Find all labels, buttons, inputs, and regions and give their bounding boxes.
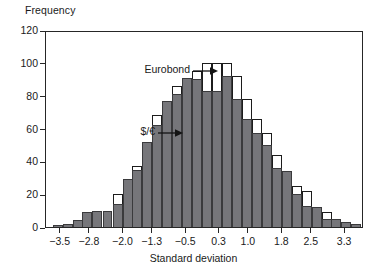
x-tick-mark [88,228,89,233]
y-axis-title: Frequency [25,4,76,16]
bar-pair [262,32,272,227]
x-tick-label: −2.0 [112,235,133,247]
x-tick-mark [185,228,186,233]
bar-pair [92,32,102,227]
bar-pair [103,32,113,227]
bar-pair [123,32,133,227]
bar-pair [63,32,73,227]
bar-pair [82,32,92,227]
x-tick-mark [247,228,248,233]
y-tick-label: 80 [26,90,38,102]
bar-dollar-euro [232,99,242,227]
histogram-figure: Frequency 020406080100120 −3.5−2.8−2.0−1… [0,0,387,273]
bar-dollar-euro [152,125,162,227]
bar-dollar-euro [142,142,152,227]
x-tick-label: 3.3 [337,235,352,247]
bar-pair [73,32,83,227]
bar-dollar-euro [252,133,262,227]
x-axis-title: Standard deviation [0,252,387,264]
bar-pair [331,32,341,227]
x-tick-mark [344,228,345,233]
bar-pair [341,32,351,227]
x-tick-label: −1.3 [141,235,162,247]
x-tick-label: −2.8 [79,235,100,247]
x-tick-label: 1.0 [241,235,256,247]
bar-pair [292,32,302,227]
bar-dollar-euro [63,224,73,227]
bar-dollar-euro [272,168,282,227]
bar-dollar-euro [103,211,113,227]
x-tick-label: −3.5 [49,235,70,247]
bar-dollar-euro [73,220,83,227]
bar-dollar-euro [322,219,332,227]
bar-dollar-euro [162,101,172,227]
bar-pair [252,32,262,227]
y-tick-label: 40 [26,155,38,167]
bar-dollar-euro [182,78,192,227]
bar-dollar-euro [292,194,302,227]
bar-group [46,32,362,227]
bar-pair [192,32,202,227]
plot-area [45,31,363,228]
bar-dollar-euro [222,76,232,227]
y-tick-label: 0 [32,221,38,233]
bar-dollar-euro [172,94,182,227]
bar-dollar-euro [331,219,341,227]
x-tick-label: 2.5 [303,235,318,247]
bar-dollar-euro [282,171,292,227]
y-tick-label: 60 [26,123,38,135]
bar-dollar-euro [113,204,123,227]
bar-dollar-euro [302,206,312,227]
arrow-right-icon [193,66,219,76]
bar-dollar-euro [351,224,361,227]
x-tick-mark [151,228,152,233]
x-tick-label: 1.8 [274,235,289,247]
bar-pair [202,32,212,227]
bar-pair [302,32,312,227]
bar-dollar-euro [132,170,142,227]
x-tick-mark [218,228,219,233]
arrow-right-icon [158,128,184,138]
bar-pair [53,32,63,227]
bar-pair [282,32,292,227]
x-tick-label: −0.5 [175,235,196,247]
bar-dollar-euro [82,212,92,227]
bar-pair [272,32,282,227]
bar-dollar-euro [202,91,212,227]
bar-pair [222,32,232,227]
x-tick-label: 0.3 [211,235,226,247]
y-tick-label: 120 [20,24,38,36]
y-tick-label: 100 [20,57,38,69]
annotation-eurobond-label: Eurobond [144,63,193,75]
bar-dollar-euro [53,225,63,227]
x-tick-mark [281,228,282,233]
bar-pair [212,32,222,227]
bar-dollar-euro [341,222,351,227]
y-tick-label: 20 [26,188,38,200]
x-tick-mark [310,228,311,233]
bar-dollar-euro [92,211,102,227]
bar-pair [351,32,361,227]
bar-dollar-euro [123,179,133,227]
x-tick-mark [59,228,60,233]
bar-pair [232,32,242,227]
bar-pair [113,32,123,227]
bar-pair [322,32,332,227]
bar-dollar-euro [242,119,252,227]
bar-dollar-euro [262,145,272,227]
bar-pair [312,32,322,227]
bar-dollar-euro [192,79,202,227]
x-tick-mark [122,228,123,233]
bar-pair [242,32,252,227]
bar-dollar-euro [312,207,322,227]
bar-dollar-euro [212,91,222,227]
annotation-dollar-euro-label: $/€ [140,125,158,137]
